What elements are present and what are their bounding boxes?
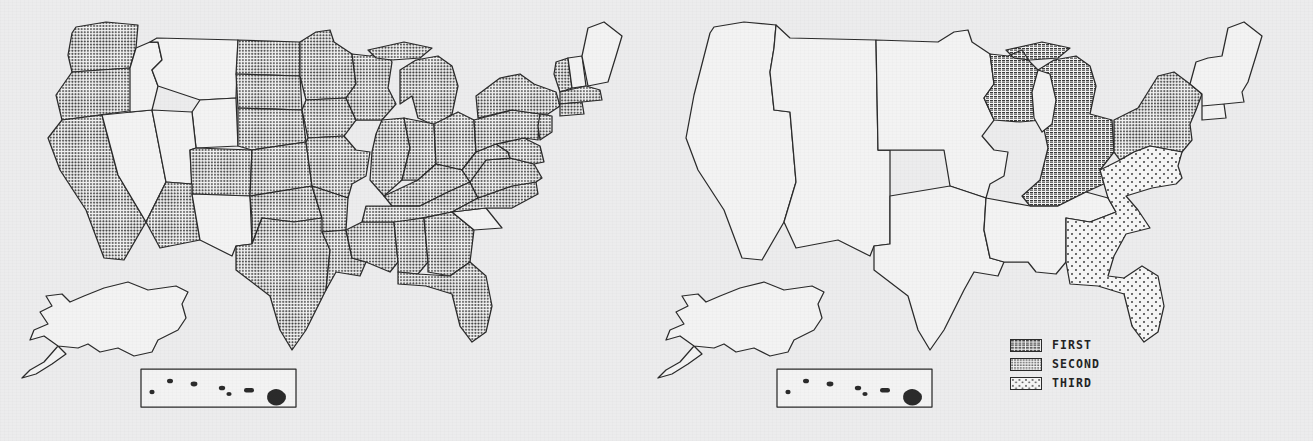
left-map-panel (0, 0, 650, 441)
state-newyork (476, 74, 560, 118)
state-connecticut (560, 102, 584, 116)
state-montana (150, 38, 238, 100)
legend-label-third: THIRD (1052, 378, 1092, 390)
map-legend: FIRST SECOND THIRD (1010, 336, 1100, 393)
state-minnesota (300, 30, 356, 100)
division-middle-atlantic (1114, 72, 1202, 160)
division-west-north-central (876, 30, 1008, 198)
state-colorado (190, 148, 252, 196)
right-map-panel (630, 0, 1313, 441)
map-page: FIRST SECOND THIRD (0, 0, 1313, 441)
division-west-south-central (874, 186, 1004, 350)
third-swatch (1010, 377, 1042, 390)
division-new-england (1190, 22, 1262, 120)
state-wyoming (192, 98, 238, 148)
state-newjersey (538, 114, 552, 140)
state-alabama (394, 218, 428, 274)
state-southdakota (236, 74, 302, 110)
inset-alaska (658, 282, 824, 378)
legend-item-third: THIRD (1010, 374, 1100, 393)
state-level-choropleth (0, 0, 650, 441)
legend-item-first: FIRST (1010, 336, 1100, 355)
census-division-choropleth (630, 0, 1313, 441)
inset-alaska (22, 282, 188, 378)
state-iowa (302, 98, 356, 138)
first-swatch (1010, 339, 1042, 352)
legend-item-second: SECOND (1010, 355, 1100, 374)
state-illinois (370, 118, 410, 196)
state-northdakota (236, 40, 300, 76)
state-maine (582, 22, 622, 86)
legend-label-second: SECOND (1052, 359, 1100, 371)
second-swatch (1010, 358, 1042, 371)
legend-label-first: FIRST (1052, 340, 1092, 352)
state-washington (68, 22, 138, 72)
